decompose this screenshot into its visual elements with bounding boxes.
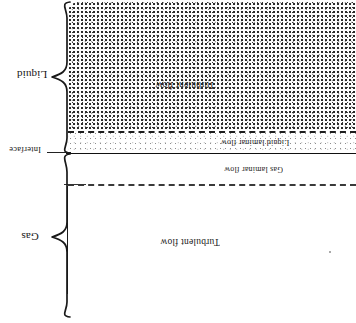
liquid-turbulent-flow-label: Turbulent flow — [135, 80, 235, 90]
gas-brace-icon — [46, 152, 72, 320]
interface-line — [66, 153, 356, 154]
gas-turbulent-flow-label: Turbulent flow — [140, 237, 240, 247]
gas-laminar-boundary-dashed-line — [68, 184, 356, 186]
diagram-canvas: Liquid Interface Gas Turbulent flow Liqu… — [0, 0, 356, 323]
scan-artifact-speck — [329, 251, 331, 253]
liquid-turbulent-region — [68, 2, 356, 132]
interface-label: Interface — [2, 145, 48, 155]
liquid-laminar-flow-label: Liquid laminar flow — [195, 138, 315, 147]
liquid-region-label: Liquid — [12, 69, 52, 81]
gas-region-label: Gas — [12, 231, 48, 243]
liquid-laminar-boundary-dashed-line — [68, 131, 356, 133]
gas-laminar-flow-label: Gas laminar flow — [196, 165, 311, 174]
